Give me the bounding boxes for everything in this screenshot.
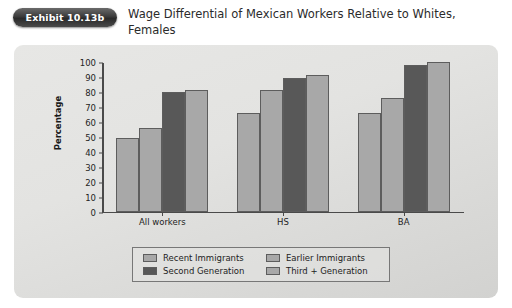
chart-legend: Recent ImmigrantsEarlier ImmigrantsSecon… (132, 247, 390, 282)
bar-group: All workers (116, 62, 208, 212)
legend-swatch-icon (266, 267, 280, 275)
chart-panel: Percentage 0102030405060708090100 All wo… (14, 45, 498, 298)
bar (404, 65, 427, 212)
legend-item[interactable]: Earlier Immigrants (266, 253, 381, 263)
x-axis-tick-label: All workers (116, 217, 208, 227)
bar (116, 138, 139, 212)
bar (283, 78, 306, 212)
y-axis-tick-mark (99, 108, 103, 109)
exhibit-badge: Exhibit 10.13b (13, 8, 117, 27)
plot-area: 0102030405060708090100 All workersHSBA (102, 63, 464, 213)
legend-label: Recent Immigrants (163, 253, 244, 263)
bar (237, 113, 260, 212)
bar (260, 90, 283, 212)
y-axis-label: Percentage (53, 96, 63, 151)
y-axis-tick-mark (99, 63, 103, 64)
bar (427, 62, 450, 212)
bar-group: HS (237, 62, 329, 212)
y-axis-tick-mark (99, 78, 103, 79)
bar (381, 98, 404, 212)
bar (139, 128, 162, 212)
y-axis-tick-mark (99, 213, 103, 214)
x-axis-tick-mark (404, 212, 405, 216)
y-axis-tick-mark (99, 123, 103, 124)
bar (358, 113, 381, 212)
y-axis-tick-mark (99, 93, 103, 94)
legend-item[interactable]: Second Generation (143, 266, 258, 276)
exhibit-header: Exhibit 10.13b Wage Differential of Mexi… (0, 0, 512, 46)
y-axis-tick-mark (99, 138, 103, 139)
legend-swatch-icon (143, 254, 157, 262)
legend-label: Second Generation (163, 266, 244, 276)
x-axis-tick-mark (162, 212, 163, 216)
legend-item[interactable]: Third + Generation (266, 266, 381, 276)
bar (185, 90, 208, 212)
y-axis-tick-mark (99, 153, 103, 154)
legend-item[interactable]: Recent Immigrants (143, 253, 258, 263)
legend-swatch-icon (266, 254, 280, 262)
y-axis-tick-mark (99, 168, 103, 169)
bar (306, 75, 329, 212)
x-axis-tick-mark (283, 212, 284, 216)
x-axis-tick-label: BA (358, 217, 450, 227)
bar-group: BA (358, 62, 450, 212)
legend-label: Earlier Immigrants (286, 253, 365, 263)
y-axis-tick-mark (99, 198, 103, 199)
page-title: Wage Differential of Mexican Workers Rel… (128, 7, 500, 38)
x-axis-tick-label: HS (237, 217, 329, 227)
legend-swatch-icon (143, 267, 157, 275)
legend-label: Third + Generation (286, 266, 368, 276)
y-axis-tick-mark (99, 183, 103, 184)
bar (162, 92, 185, 212)
